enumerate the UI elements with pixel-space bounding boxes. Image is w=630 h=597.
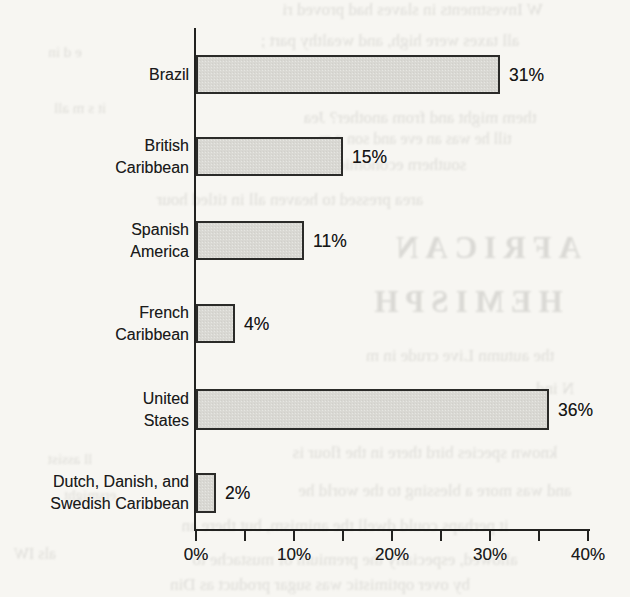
- x-tick-40: [587, 531, 589, 541]
- x-tick-label-0: 0%: [164, 545, 228, 565]
- value-label-spanish-america: 11%: [313, 230, 347, 252]
- value-label-dutch-danish-and-swedish-caribbean: 2%: [225, 482, 250, 504]
- bar-chart: 0%10%20%30%40% BrazilBritishCaribbeanSpa…: [0, 0, 630, 597]
- x-tick-0: [195, 531, 197, 541]
- value-label-british-caribbean: 15%: [352, 146, 387, 168]
- x-tick-35: [538, 531, 540, 541]
- bar-british-caribbean: [196, 137, 343, 176]
- bar-united-states: [196, 389, 549, 430]
- x-tick-25: [440, 531, 442, 541]
- bar-dutch-danish-and-swedish-caribbean: [196, 473, 216, 513]
- category-label-brazil: Brazil: [0, 64, 189, 86]
- category-label-french-caribbean: FrenchCaribbean: [0, 302, 189, 346]
- x-tick-label-10: 10%: [262, 545, 326, 565]
- x-tick-20: [391, 531, 393, 541]
- scanned-book-page: W Investments in slaves had proved riall…: [0, 0, 630, 597]
- bar-spanish-america: [196, 221, 304, 260]
- x-tick-label-30: 30%: [458, 545, 522, 565]
- category-label-united-states: UnitedStates: [0, 388, 189, 432]
- x-tick-10: [293, 531, 295, 541]
- value-label-united-states: 36%: [558, 399, 593, 421]
- category-label-spanish-america: SpanishAmerica: [0, 219, 189, 263]
- x-tick-15: [342, 531, 344, 541]
- bar-french-caribbean: [196, 304, 235, 343]
- x-tick-label-40: 40%: [556, 545, 620, 565]
- x-tick-30: [489, 531, 491, 541]
- y-axis-line: [194, 28, 196, 531]
- category-label-british-caribbean: BritishCaribbean: [0, 135, 189, 179]
- x-tick-5: [244, 531, 246, 541]
- bar-brazil: [196, 55, 500, 94]
- value-label-french-caribbean: 4%: [244, 313, 269, 335]
- value-label-brazil: 31%: [509, 64, 544, 86]
- category-label-dutch-danish-and-swedish-caribbean: Dutch, Danish, andSwedish Caribbean: [0, 471, 189, 515]
- x-tick-label-20: 20%: [360, 545, 424, 565]
